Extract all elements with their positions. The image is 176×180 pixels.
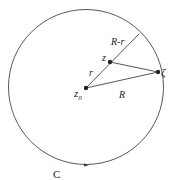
cauchy-integral-diagram: z0 z ζ r R-r R C: [0, 0, 176, 180]
label-r: r: [89, 67, 93, 78]
point-z: [108, 60, 112, 64]
label-z0: z0: [73, 87, 82, 102]
label-R-minus-r: R-r: [110, 36, 124, 47]
point-z0: [84, 86, 88, 90]
segment-z0-zeta: [86, 72, 158, 88]
segment-z-zeta: [110, 62, 158, 72]
label-zeta: ζ: [161, 66, 167, 79]
label-z: z: [101, 52, 106, 63]
point-zeta: [156, 70, 160, 74]
label-R: R: [118, 89, 125, 100]
label-C: C: [53, 168, 60, 180]
orientation-arrow-icon: [84, 164, 89, 167]
